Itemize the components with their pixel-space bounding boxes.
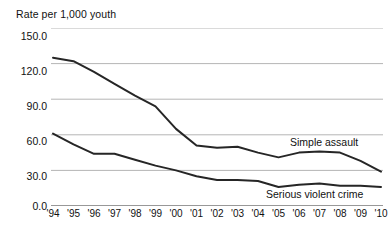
x-tick-label-2007: '07 — [313, 208, 326, 220]
y-tick-label-30: 30.0 — [27, 171, 47, 181]
gridlines — [51, 28, 383, 170]
line-chart: Rate per 1,000 youth 150.0 120.0 90.0 60… — [0, 0, 391, 232]
x-tick-label-2005: '05 — [272, 208, 285, 220]
x-tick-label-1998: '98 — [128, 208, 141, 220]
x-axis: '94'95'96'97'98'99'00'01'02'03'04'05'06'… — [51, 208, 383, 226]
x-tick-label-1996: '96 — [87, 208, 100, 220]
series-lines — [53, 58, 381, 187]
x-tick-label-2000: '00 — [169, 208, 182, 220]
y-tick-label-0: 0.0 — [32, 201, 47, 211]
x-tick-label-2006: '06 — [292, 208, 305, 220]
y-tick-label-60: 60.0 — [27, 136, 47, 146]
series-label-serious-violent-crime: Serious violent crime — [265, 188, 364, 200]
series-label-simple-assault: Simple assault — [289, 136, 359, 148]
x-tick-label-1995: '95 — [67, 208, 80, 220]
x-tick-label-2009: '09 — [354, 208, 367, 220]
plot-area — [51, 28, 383, 206]
y-tick-label-150: 150.0 — [21, 31, 47, 41]
x-tick-label-2002: '02 — [210, 208, 223, 220]
x-tick-label-2004: '04 — [251, 208, 264, 220]
x-tick-label-2010: '10 — [374, 208, 387, 220]
x-tick-label-2003: '03 — [231, 208, 244, 220]
x-tick-label-1997: '97 — [108, 208, 121, 220]
x-tick-label-1994: '94 — [46, 208, 59, 220]
y-axis: 150.0 120.0 90.0 60.0 30.0 0.0 — [0, 0, 47, 232]
x-tick-label-1999: '99 — [149, 208, 162, 220]
x-tick-label-2008: '08 — [333, 208, 346, 220]
x-tick-label-2001: '01 — [190, 208, 203, 220]
y-tick-label-90: 90.0 — [27, 101, 47, 111]
plot-svg — [51, 28, 383, 206]
y-tick-label-120: 120.0 — [21, 66, 47, 76]
